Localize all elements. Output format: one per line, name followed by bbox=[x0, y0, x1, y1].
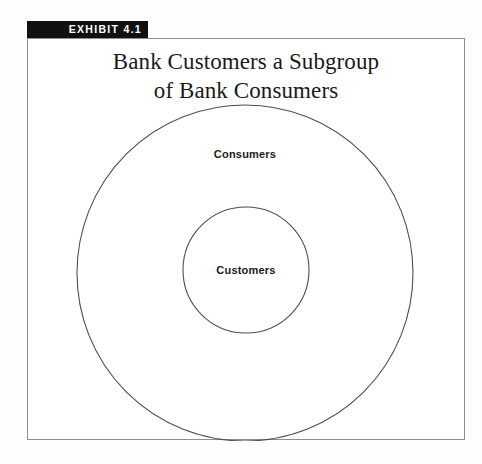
exhibit-tag-label: EXHIBIT 4.1 bbox=[69, 24, 142, 35]
venn-diagram-svg bbox=[28, 39, 466, 441]
venn-diagram: Consumers Customers bbox=[28, 39, 466, 441]
inner-circle-label: Customers bbox=[216, 264, 275, 276]
exhibit-page: EXHIBIT 4.1 Bank Customers a Subgroup of… bbox=[0, 0, 482, 464]
exhibit-tag: EXHIBIT 4.1 bbox=[27, 21, 148, 38]
outer-circle-label: Consumers bbox=[214, 148, 276, 160]
exhibit-frame: Bank Customers a Subgroup of Bank Consum… bbox=[27, 38, 465, 440]
